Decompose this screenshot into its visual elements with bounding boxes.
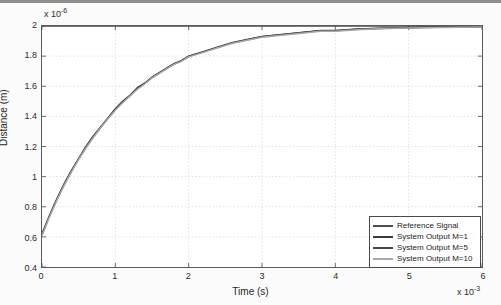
x-tick-label: 0 xyxy=(38,272,43,281)
x-tick-label: 2 xyxy=(186,272,191,281)
window-top-strip xyxy=(0,0,501,3)
legend-item-label: System Output M=5 xyxy=(397,242,468,253)
legend-item-label: System Output M=1 xyxy=(397,231,468,242)
x-tick-label: 4 xyxy=(333,272,338,281)
y-tick-label: 1.6 xyxy=(6,81,37,90)
legend-item[interactable]: System Output M=10 xyxy=(373,253,476,264)
y-tick-label: 1 xyxy=(6,172,37,181)
legend-line-swatch xyxy=(373,258,393,260)
y-axis-exponent-multiplier: x 10-6 xyxy=(44,10,67,19)
y-tick-label: 2 xyxy=(6,21,37,30)
legend-line-swatch xyxy=(373,247,393,249)
x-axis-label: Time (s) xyxy=(0,286,501,297)
y-tick-label: 1.4 xyxy=(6,112,37,121)
y-tick-label: 0.8 xyxy=(6,203,37,212)
y-exp-base: x 10 xyxy=(44,9,61,19)
legend-line-swatch xyxy=(373,225,393,227)
y-tick-label: 0.4 xyxy=(6,264,37,273)
x-tick-label: 3 xyxy=(259,272,264,281)
x-tick-label: 1 xyxy=(112,272,117,281)
figure-window: x 10-6 x 10-3 Distance (m) Time (s) 0123… xyxy=(0,0,501,305)
x-tick-label: 5 xyxy=(407,272,412,281)
legend-item[interactable]: System Output M=5 xyxy=(373,242,476,253)
legend-item-label: System Output M=10 xyxy=(397,253,472,264)
y-tick-label: 1.2 xyxy=(6,142,37,151)
legend-item[interactable]: Reference Signal xyxy=(373,220,476,231)
y-tick-label: 0.6 xyxy=(6,233,37,242)
y-tick-label: 1.8 xyxy=(6,51,37,60)
legend-item[interactable]: System Output M=1 xyxy=(373,231,476,242)
legend[interactable]: Reference SignalSystem Output M=1System … xyxy=(369,216,481,268)
legend-line-swatch xyxy=(373,236,393,238)
legend-item-label: Reference Signal xyxy=(397,220,458,231)
x-tick-label: 6 xyxy=(480,272,485,281)
y-exp-power: -6 xyxy=(61,7,67,14)
